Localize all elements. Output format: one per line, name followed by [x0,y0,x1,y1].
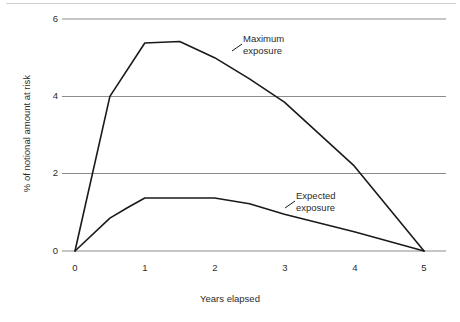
y-axis-title: % of notional amount at risk [21,64,32,204]
annotation-maximum-exposure: Maximum exposure [243,33,284,57]
x-tick-label-5: 5 [414,262,434,273]
x-tick-label-1: 1 [135,262,155,273]
annotation-expected-line1: Expected [296,190,336,201]
annotation-expected-line2: exposure [296,202,336,214]
chart-container: 6 4 2 0 0 1 2 3 4 5 % of notional amount… [0,0,460,322]
leader-line-expected [285,201,295,208]
y-tick-label-4: 4 [40,90,58,101]
x-tick-label-0: 0 [65,262,85,273]
x-tick-label-3: 3 [275,262,295,273]
chart-plot-svg [0,0,460,322]
y-tick-label-6: 6 [40,13,58,24]
x-tick-label-2: 2 [205,262,225,273]
x-axis-title: Years elapsed [160,293,300,304]
y-tick-label-0: 0 [40,245,58,256]
annotation-expected-exposure: Expected exposure [296,190,336,214]
series-line-maximum-exposure [75,41,424,251]
annotation-maximum-line2: exposure [243,45,284,57]
x-tick-label-4: 4 [345,262,365,273]
annotation-maximum-line1: Maximum [243,33,284,44]
y-tick-label-2: 2 [40,167,58,178]
leader-line-maximum [232,44,242,51]
series-line-expected-exposure [75,198,424,251]
